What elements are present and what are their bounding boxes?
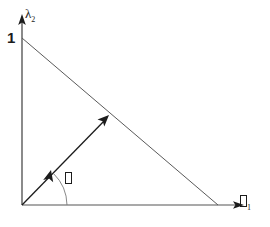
x-axis-label: 1	[240, 195, 251, 212]
y-axis-label-subscript: 2	[31, 15, 35, 24]
vector-line	[22, 119, 106, 205]
y-axis-label: λ2	[25, 7, 35, 24]
y-intercept-label: 1	[7, 30, 15, 45]
y-axis	[18, 14, 26, 205]
x-axis-label-subscript: 1	[247, 203, 251, 212]
x-axis-label-missing-glyph-icon	[240, 195, 247, 207]
vector-diagram-figure: 1 λ2 1	[0, 0, 270, 227]
diagram-canvas	[0, 0, 270, 227]
angle-label-missing-glyph-icon	[65, 172, 72, 184]
vector-inner-arrowhead-icon	[43, 170, 53, 182]
angle-label	[65, 172, 72, 185]
vector-tip-arrowhead-icon	[98, 115, 110, 126]
x-axis	[22, 201, 244, 209]
solution-vector	[22, 115, 109, 205]
